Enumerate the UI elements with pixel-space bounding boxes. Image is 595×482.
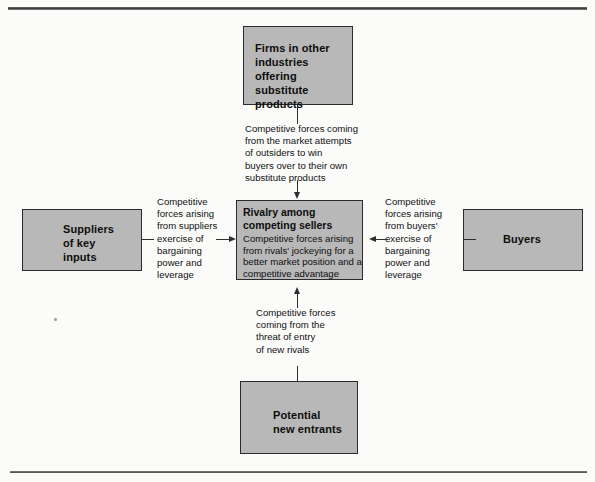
box-substitute-products-label: Firms in other industries offering subst… [255, 41, 351, 111]
connector-line-buyers-left [376, 239, 388, 240]
scan-artifact-speck [54, 318, 57, 321]
box-buyers[interactable]: Buyers [463, 209, 583, 271]
box-potential-new-entrants[interactable]: Potential new entrants [240, 381, 358, 454]
box-rivalry-among-competing-sellers[interactable]: Rivalry among competing sellers Competit… [236, 200, 363, 280]
box-rivalry-body: Competitive forces arising from rivals' … [243, 233, 363, 279]
box-entrants-label: Potential new entrants [273, 408, 359, 436]
box-substitute-products[interactable]: Firms in other industries offering subst… [243, 26, 353, 105]
box-buyers-label: Buyers [503, 232, 583, 246]
connector-line-entrants-lower [297, 366, 298, 382]
connector-line-suppliers-left [142, 239, 154, 240]
arrowhead-left-icon [369, 236, 376, 242]
arrowhead-down-icon [294, 192, 300, 199]
page-rule-bottom [10, 471, 587, 473]
arrowhead-right-icon [229, 236, 236, 242]
page-rule-top [8, 7, 587, 10]
connector-label-entrants: Competitive forces coming from the threa… [256, 307, 366, 356]
connector-label-substitutes: Competitive forces coming from the marke… [245, 123, 377, 184]
connector-line-suppliers-right [216, 239, 230, 240]
box-rivalry-title: Rivalry among competing sellers [243, 206, 361, 231]
box-suppliers-of-key-inputs[interactable]: Suppliers of key inputs [22, 209, 142, 271]
diagram-canvas: Firms in other industries offering subst… [0, 0, 595, 482]
box-suppliers-label: Suppliers of key inputs [63, 222, 143, 264]
connector-label-buyers: Competitive forces arising from buyers' … [385, 196, 461, 281]
arrowhead-up-icon [294, 287, 300, 294]
connector-line-buyers-right [463, 239, 476, 240]
connector-line-substitutes-upper [297, 105, 298, 124]
connector-line-entrants-upper [297, 294, 298, 308]
